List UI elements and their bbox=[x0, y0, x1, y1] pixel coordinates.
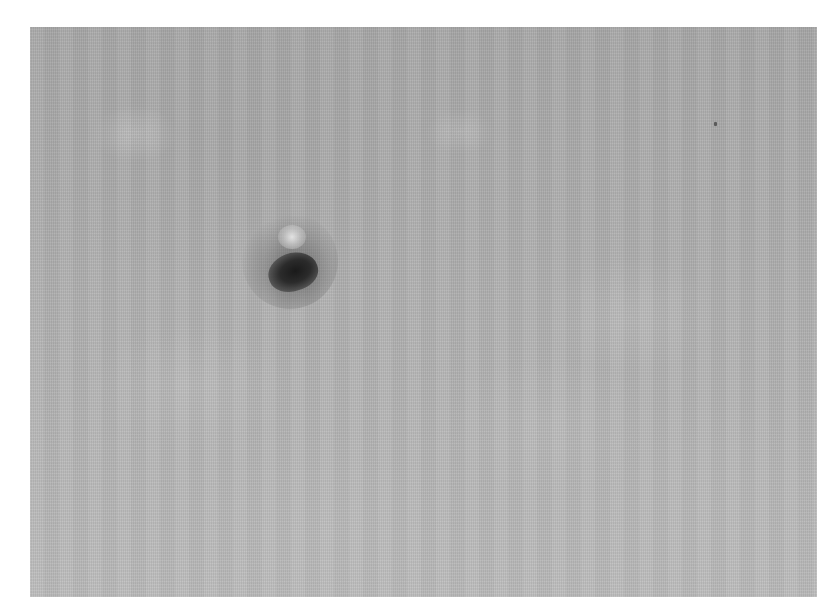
particle-core bbox=[263, 246, 323, 299]
small-speck bbox=[714, 122, 717, 126]
noise-texture bbox=[30, 27, 817, 597]
particle-halo bbox=[242, 213, 338, 309]
micrograph-photo bbox=[30, 27, 817, 597]
dark-particle bbox=[230, 207, 350, 317]
particle-highlight bbox=[278, 225, 306, 249]
canvas bbox=[0, 0, 839, 614]
